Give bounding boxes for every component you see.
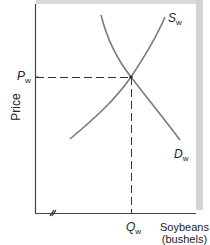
dw-label: Dw bbox=[174, 148, 188, 165]
pw-label: Pw bbox=[17, 70, 31, 87]
x-axis-label: Soybeans (bushels) bbox=[160, 221, 209, 245]
qw-label: Qw bbox=[126, 221, 141, 238]
equilibrium-point bbox=[129, 75, 132, 78]
y-axis-label: Price bbox=[9, 87, 23, 127]
sw-label: Sw bbox=[168, 12, 182, 29]
